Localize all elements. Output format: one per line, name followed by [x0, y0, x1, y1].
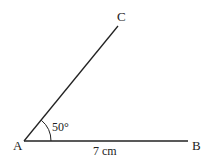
length-label-ab: 7 cm — [93, 144, 117, 158]
angle-arc — [41, 120, 51, 141]
angle-label: 50° — [52, 120, 69, 134]
point-label-a: A — [13, 138, 23, 153]
segment-ac — [24, 26, 118, 141]
angle-diagram: A B C 50° 7 cm — [0, 0, 206, 165]
point-label-c: C — [117, 9, 126, 24]
point-label-b: B — [192, 138, 201, 153]
